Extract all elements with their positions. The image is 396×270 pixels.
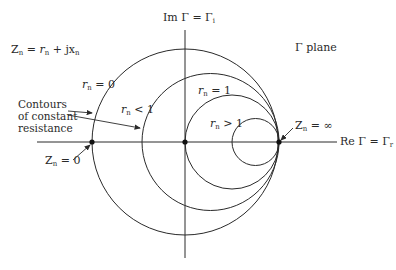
label-rn-lt-1: rn < 1 xyxy=(121,104,154,117)
label-zn-inf: Zn = ∞ xyxy=(295,120,333,133)
label-rn-1: rn = 1 xyxy=(198,85,231,98)
label-rn-gt-1: rn > 1 xyxy=(210,118,243,131)
plane-label: Γ plane xyxy=(295,42,337,53)
label-zn-0: Zn = 0 xyxy=(45,155,80,168)
imag-axis-label: Im Γ = Γi xyxy=(163,12,215,25)
point-origin xyxy=(182,139,187,144)
real-axis-label: Re Γ = Γr xyxy=(340,136,393,149)
impedance-equation: Zn = rn + jxn xyxy=(11,44,80,57)
contours-note: Contours of constant resistance xyxy=(18,98,77,134)
arrow-zn-inf xyxy=(281,128,293,140)
label-rn-0: rn = 0 xyxy=(82,79,115,92)
point-short-circuit xyxy=(89,139,94,144)
point-open-circuit xyxy=(276,139,281,144)
